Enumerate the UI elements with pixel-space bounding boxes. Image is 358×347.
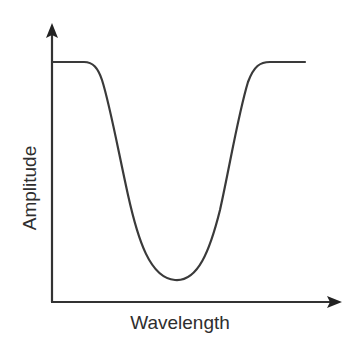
notch-response-plot [0,0,358,347]
response-curve [53,62,305,280]
x-axis-label: Wavelength [130,312,230,334]
y-axis-label: Amplitude [19,146,41,231]
